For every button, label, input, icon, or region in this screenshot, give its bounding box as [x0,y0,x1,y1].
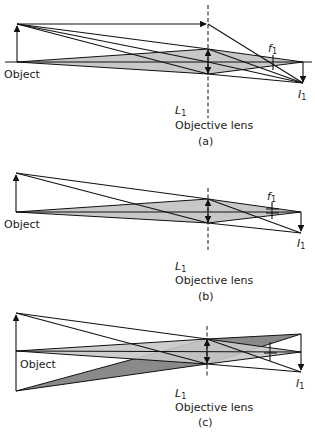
caption-a: (a) [198,135,213,148]
ray-top-3b [208,74,303,83]
object-label: Object [4,218,41,231]
image-label: I1 [297,237,305,251]
lens-symbol: L1 [175,104,186,118]
object-label: Object [4,68,41,81]
lens-label: Objective lens [175,119,253,132]
light-cone [16,199,301,223]
ray-top-1 [16,173,208,199]
ray-top-2b [207,364,301,372]
object-label: Object [20,358,57,371]
focal-label: f1 [268,42,277,56]
ray-top-1 [17,24,208,49]
caption-c: (c) [198,416,213,429]
image-label: I1 [296,377,304,391]
lens-symbol: L1 [175,260,186,274]
panel-b: Object f1 I1 L1 Objective lens (b) [4,173,305,303]
image-label: I1 [298,88,306,102]
caption-b: (b) [198,290,214,303]
ray-top-1 [16,313,207,339]
lens-label: Objective lens [175,274,253,287]
panel-a: Object f1 I1 L1 Objective lens (a) [4,5,312,148]
focal-label: f1 [267,190,276,204]
lens-symbol: L1 [175,387,186,401]
panel-c: Object I1 L1 Objective lens (c) [16,313,304,429]
optics-figure: Object f1 I1 L1 Objective lens (a) Objec… [0,0,315,437]
lens-label: Objective lens [175,401,253,414]
